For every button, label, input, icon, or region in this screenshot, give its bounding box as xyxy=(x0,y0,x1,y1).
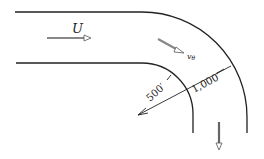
outflow-arrow-icon xyxy=(216,122,222,150)
outer-radius-label: 1,000′ xyxy=(190,70,223,95)
tangential-velocity-arrow-icon xyxy=(158,39,184,53)
uniform-velocity-label: U xyxy=(72,21,84,36)
inner-channel-wall xyxy=(16,63,193,133)
channel-bend-diagram: U vθ 500′ 1,000′ xyxy=(0,0,264,159)
uniform-velocity-arrow-icon xyxy=(47,35,91,41)
tangential-velocity-label: vθ xyxy=(187,52,196,61)
inner-radius-label: 500′ xyxy=(144,81,168,104)
